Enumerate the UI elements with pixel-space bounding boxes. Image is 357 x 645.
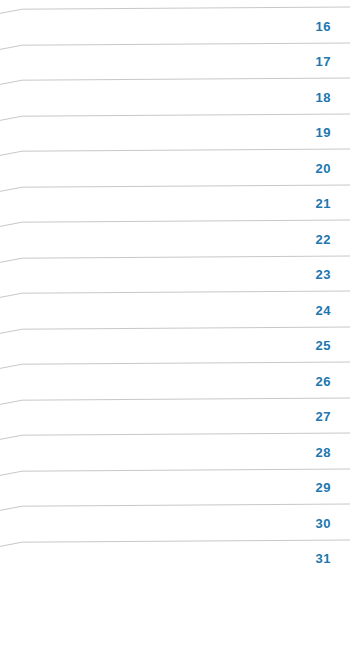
row-separator-rule — [0, 36, 357, 50]
day-row[interactable]: 18 — [0, 71, 357, 107]
day-row[interactable]: 31 — [0, 533, 357, 569]
row-separator-rule — [0, 355, 357, 369]
day-number[interactable]: 27 — [316, 410, 331, 424]
day-list: 16171819202122232425262728293031 — [0, 0, 357, 645]
row-separator-rule — [0, 213, 357, 227]
day-number[interactable]: 21 — [316, 197, 331, 211]
day-row[interactable]: 26 — [0, 355, 357, 391]
row-separator-rule — [0, 462, 357, 476]
day-number[interactable]: 24 — [316, 304, 331, 318]
day-row[interactable]: 16 — [0, 0, 357, 36]
day-number[interactable]: 19 — [316, 126, 331, 140]
day-row[interactable]: 24 — [0, 284, 357, 320]
row-separator-rule — [0, 284, 357, 298]
day-row[interactable]: 30 — [0, 497, 357, 533]
row-separator-rule — [0, 497, 357, 511]
day-row[interactable]: 17 — [0, 36, 357, 72]
row-separator-rule — [0, 533, 357, 547]
day-row[interactable]: 23 — [0, 249, 357, 285]
row-separator-rule — [0, 249, 357, 263]
day-number[interactable]: 16 — [316, 20, 331, 34]
day-number[interactable]: 17 — [316, 55, 331, 69]
day-number[interactable]: 31 — [316, 552, 331, 566]
row-separator-rule — [0, 107, 357, 121]
day-row[interactable]: 29 — [0, 462, 357, 498]
day-number[interactable]: 28 — [316, 446, 331, 460]
day-row[interactable]: 20 — [0, 142, 357, 178]
day-number[interactable]: 26 — [316, 375, 331, 389]
day-number[interactable]: 29 — [316, 481, 331, 495]
day-row[interactable]: 19 — [0, 107, 357, 143]
day-number[interactable]: 25 — [316, 339, 331, 353]
day-row[interactable]: 27 — [0, 391, 357, 427]
day-number[interactable]: 30 — [316, 517, 331, 531]
day-row[interactable]: 21 — [0, 178, 357, 214]
row-separator-rule — [0, 426, 357, 440]
row-separator-rule — [0, 178, 357, 192]
day-number[interactable]: 18 — [316, 91, 331, 105]
day-number[interactable]: 23 — [316, 268, 331, 282]
row-separator-rule — [0, 142, 357, 156]
day-row[interactable]: 25 — [0, 320, 357, 356]
day-number[interactable]: 20 — [316, 162, 331, 176]
row-separator-rule — [0, 71, 357, 85]
row-separator-rule — [0, 0, 357, 14]
row-separator-rule — [0, 391, 357, 405]
row-separator-rule — [0, 320, 357, 334]
day-number[interactable]: 22 — [316, 233, 331, 247]
day-row[interactable]: 22 — [0, 213, 357, 249]
day-row[interactable]: 28 — [0, 426, 357, 462]
